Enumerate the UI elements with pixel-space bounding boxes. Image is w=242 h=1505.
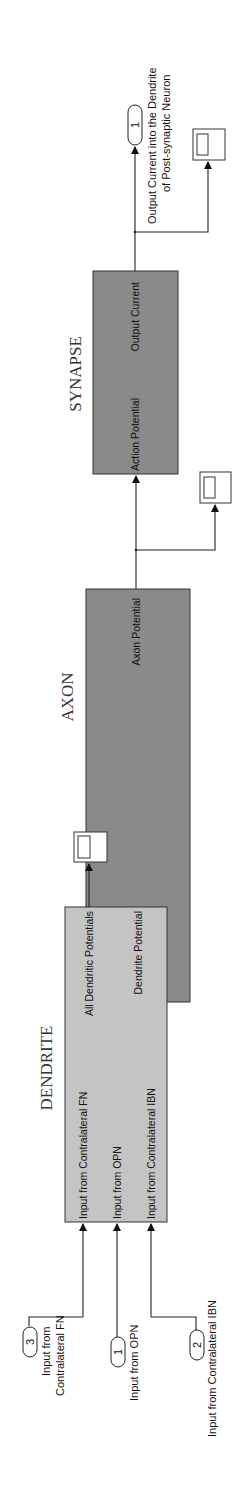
axon-title: AXON	[58, 672, 77, 721]
synapse-output-port-label: Output Current	[129, 282, 141, 352]
inport-2-label: Input from Contralateral IBN	[206, 1300, 218, 1437]
inport-3[interactable]: 3	[23, 1327, 37, 1357]
synapse-title: SYNAPSE	[66, 336, 85, 412]
inport-number: 3	[24, 1339, 36, 1345]
dendrite-title: DENDRITE	[37, 1026, 56, 1111]
inport-3-label-line2: Contralateral FN	[54, 1315, 66, 1396]
inport-1[interactable]: 1	[111, 1337, 125, 1367]
outport-number: 1	[129, 122, 141, 128]
inport-3-label-line1: Input from	[40, 1326, 52, 1376]
wire-inport2-elbow	[151, 1317, 196, 1330]
axon-output-port-label: Axon Potential	[130, 598, 142, 666]
wire-branch-to-axon-scope	[136, 505, 215, 550]
scope-dendritic-potentials[interactable]	[74, 832, 107, 862]
synapse-block[interactable]: Action Potential Output Current	[93, 271, 178, 474]
dendrite-input-port-label: Input from Contralateral FN	[77, 1092, 89, 1219]
dendrite-output-port-label: All Dendritic Potentials	[83, 911, 95, 1016]
scope-screen-icon	[78, 836, 90, 858]
scope-axon-potential[interactable]	[200, 472, 231, 503]
simulink-diagram: 1 Output Current into the Dendrite of Po…	[0, 0, 242, 1505]
inport-1-label: Input from OPN	[128, 1325, 140, 1401]
scope-screen-icon	[197, 134, 208, 155]
dendrite-input-port-label: Input from OPN	[111, 1146, 123, 1219]
scope-output-current[interactable]	[193, 129, 225, 160]
dendrite-input-port-label: Input from Contralateral IBN	[145, 1088, 157, 1219]
inport-2[interactable]: 2	[190, 1330, 204, 1360]
synapse-input-port-label: Action Potential	[129, 398, 141, 471]
branch-point	[135, 549, 138, 552]
dendrite-block[interactable]: Input from Contralateral FN Input from O…	[65, 907, 167, 1222]
branch-point	[134, 231, 137, 234]
inport-number: 2	[191, 1342, 203, 1348]
outport-label-line2: of Post-synaptic Neuron	[160, 75, 172, 192]
dendrite-output-port-label: Dendrite Potential	[132, 911, 144, 994]
outport-output-current[interactable]: 1	[128, 105, 142, 145]
scope-screen-icon	[204, 477, 215, 498]
outport-label-line1: Output Current into the Dendrite	[146, 67, 158, 224]
inport-number: 1	[112, 1349, 124, 1355]
